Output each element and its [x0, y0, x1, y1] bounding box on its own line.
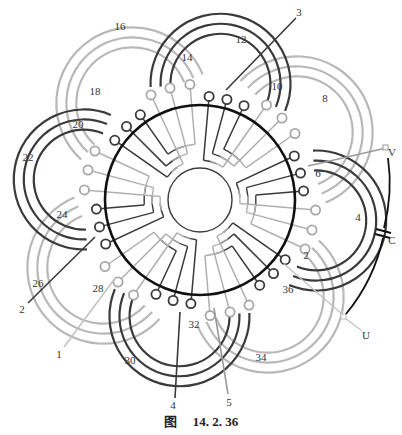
- slot-spoke: [95, 151, 149, 176]
- slot-spoke: [96, 205, 144, 209]
- inner-connection-arc: [160, 197, 161, 211]
- slot-label: 34: [256, 351, 268, 363]
- slot-label: V: [388, 146, 396, 158]
- slot-terminal: [205, 92, 214, 101]
- slot-spoke: [190, 84, 195, 144]
- slot-spoke: [170, 88, 188, 154]
- slot-spoke: [212, 246, 230, 312]
- slot-terminal: [290, 151, 299, 160]
- slot-terminal: [299, 186, 308, 195]
- slot-terminal: [151, 290, 160, 299]
- lead-1: [64, 277, 116, 347]
- slot-terminal: [101, 239, 110, 248]
- capacitor-wire-bottom: [346, 238, 383, 314]
- slot-label: 22: [23, 151, 34, 163]
- slot-terminal: [222, 95, 231, 104]
- slot-terminal: [269, 269, 278, 278]
- slot-terminal: [136, 110, 145, 119]
- capacitor-plate-1: [376, 229, 391, 233]
- slot-label: 30: [125, 354, 137, 366]
- slot-label: 8: [322, 92, 328, 104]
- slot-label: 4: [170, 399, 176, 411]
- slot-terminal: [95, 222, 104, 231]
- slot-label: U: [362, 329, 370, 341]
- inner-connection-arc: [172, 164, 183, 172]
- slot-terminal: [255, 281, 264, 290]
- inner-connection-arc: [210, 161, 223, 167]
- winding-diagram: 1614123108182022V64C242262836232U1303454…: [0, 0, 402, 435]
- slot-terminal: [262, 100, 271, 109]
- slot-spoke: [246, 212, 312, 230]
- slot-terminal: [185, 80, 194, 89]
- slot-spoke: [240, 204, 316, 211]
- slot-label: 26: [33, 277, 45, 289]
- inner-ring: [168, 168, 232, 232]
- slot-terminal: [239, 101, 248, 110]
- capacitor-wire-top: [384, 158, 390, 228]
- slot-spoke: [205, 256, 210, 316]
- slot-terminal: [186, 299, 195, 308]
- slot-label: 14: [182, 51, 194, 63]
- slot-terminal: [281, 255, 290, 264]
- slot-terminal: [296, 169, 305, 178]
- slot-spoke: [251, 224, 305, 249]
- slot-label: 32: [189, 318, 200, 330]
- slot-terminal: [307, 225, 316, 234]
- slot-label: 1: [56, 348, 62, 360]
- slot-terminal: [83, 165, 92, 174]
- slot-label: 2: [303, 249, 309, 261]
- lead-U: [345, 318, 362, 331]
- slot-terminal: [165, 83, 174, 92]
- slot-terminal: [277, 113, 286, 122]
- slot-terminal: [92, 205, 101, 214]
- slot-terminal: [290, 129, 299, 138]
- slot-label: 24: [57, 208, 69, 220]
- slot-terminal: [206, 311, 215, 320]
- slot-label: 6: [315, 167, 321, 179]
- caption-number: 14. 2. 36: [193, 414, 239, 429]
- slot-terminal: [100, 262, 109, 271]
- slot-spoke: [84, 190, 160, 197]
- slot-label: 18: [90, 85, 102, 97]
- slot-terminal: [80, 185, 89, 194]
- slot-label: 16: [115, 20, 127, 32]
- slot-terminal: [244, 301, 253, 310]
- slot-terminal: [311, 206, 320, 215]
- slot-label: 20: [73, 118, 85, 130]
- caption-prefix: 图: [164, 414, 177, 429]
- slot-terminal: [122, 122, 131, 131]
- slot-terminal: [225, 307, 234, 316]
- inner-connection-arc: [217, 228, 228, 236]
- slot-terminal: [129, 290, 138, 299]
- stator-ring: [105, 105, 295, 295]
- slot-label: 5: [226, 396, 232, 408]
- slot-spoke: [256, 191, 304, 195]
- slot-label: C: [388, 234, 395, 246]
- slot-label: 10: [272, 80, 284, 92]
- slot-label: 36: [283, 283, 295, 295]
- slot-terminal: [110, 136, 119, 145]
- slot-label: 3: [296, 6, 302, 18]
- lead-3: [226, 18, 296, 90]
- slot-label: 2: [19, 303, 25, 315]
- light-coil-arcs: [27, 27, 372, 372]
- terminal-U: [341, 314, 346, 319]
- slot-label: 4: [355, 211, 361, 223]
- inner-connection-arc: [177, 233, 190, 239]
- slot-label: 28: [93, 282, 105, 294]
- lead-4: [175, 312, 180, 398]
- slot-label: 12: [236, 33, 247, 45]
- slot-spoke: [88, 170, 154, 188]
- slot-terminal: [169, 296, 178, 305]
- slot-terminal: [146, 90, 155, 99]
- inner-connection-arc: [239, 190, 240, 204]
- figure-caption: 图14. 2. 36: [0, 411, 402, 430]
- slot-terminal: [90, 146, 99, 155]
- winding-diagram-svg: 1614123108182022V64C242262836232U1303454: [0, 0, 402, 435]
